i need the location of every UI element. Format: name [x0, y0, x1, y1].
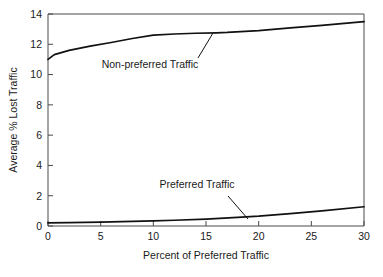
y-tick-label: 8 — [36, 99, 42, 111]
x-tick-label: 25 — [305, 230, 317, 242]
chart-background — [0, 0, 383, 277]
x-tick-label: 15 — [200, 230, 212, 242]
x-tick-label: 30 — [358, 230, 370, 242]
chart-container: 051015202530 02468101214 Non-preferred T… — [0, 0, 383, 277]
x-tick-label: 0 — [45, 230, 51, 242]
y-tick-label: 14 — [30, 8, 42, 20]
y-tick-label: 10 — [30, 68, 42, 80]
x-tick-label: 10 — [147, 230, 159, 242]
line-chart: 051015202530 02468101214 Non-preferred T… — [0, 0, 383, 277]
x-tick-label: 20 — [253, 230, 265, 242]
y-tick-label: 6 — [36, 129, 42, 141]
annotation-label-preferred-traffic: Preferred Traffic — [159, 178, 234, 190]
y-tick-label: 2 — [36, 190, 42, 202]
y-tick-label: 0 — [36, 220, 42, 232]
x-tick-label: 5 — [98, 230, 104, 242]
x-axis-title: Percent of Preferred Traffic — [143, 249, 269, 261]
y-axis-title: Average % Lost Traffic — [7, 67, 19, 172]
y-tick-label: 4 — [36, 159, 42, 171]
y-tick-label: 12 — [30, 38, 42, 50]
annotation-label-non-preferred-traffic: Non-preferred Traffic — [102, 58, 199, 70]
